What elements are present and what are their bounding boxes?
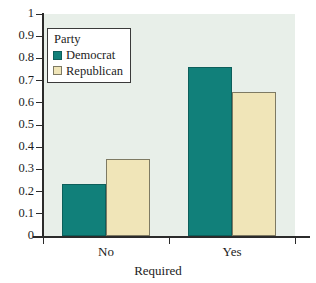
y-axis-tick-label: 0.8	[18, 51, 34, 64]
y-axis-tick	[36, 236, 43, 237]
y-axis-tick	[36, 213, 43, 214]
legend-swatch-republican	[53, 66, 62, 75]
x-axis-line	[33, 236, 310, 238]
y-axis-tick-label: 0.5	[18, 118, 34, 131]
y-axis-tick	[36, 14, 43, 15]
y-axis-tick-label: 0.4	[18, 140, 34, 153]
legend-item-democrat: Democrat	[53, 48, 123, 62]
x-axis-tick	[169, 238, 170, 244]
y-axis-tick-label: 0.9	[18, 29, 34, 42]
y-axis-tick	[36, 58, 43, 59]
x-axis-tick	[43, 238, 44, 244]
bar-yes-democrat	[188, 67, 232, 236]
y-axis-tick	[36, 36, 43, 37]
bar-yes-republican	[232, 92, 276, 236]
chart-legend: Party Democrat Republican	[47, 28, 131, 83]
x-axis-tick	[295, 238, 296, 244]
legend-title: Party	[54, 32, 123, 46]
y-axis-tick	[36, 147, 43, 148]
legend-label-democrat: Democrat	[66, 48, 115, 62]
y-axis-tick-label: 0	[28, 229, 34, 242]
bar-chart: 00.10.20.30.40.50.60.70.80.91 NoYes Requ…	[0, 0, 316, 283]
x-axis-title: Required	[0, 263, 316, 279]
y-axis-tick-label: 0.2	[18, 185, 34, 198]
x-axis-tick-label: Yes	[223, 244, 242, 260]
legend-item-republican: Republican	[53, 64, 123, 78]
y-axis-tick-label: 1	[28, 7, 34, 20]
legend-swatch-democrat	[53, 51, 62, 60]
legend-label-republican: Republican	[66, 64, 123, 78]
y-axis-tick-label: 0.6	[18, 96, 34, 109]
y-axis-tick	[36, 102, 43, 103]
bar-no-democrat	[62, 184, 106, 236]
y-axis-tick-label: 0.7	[18, 74, 34, 87]
y-axis-tick	[36, 125, 43, 126]
y-axis-tick	[36, 191, 43, 192]
y-axis-tick-label: 0.3	[18, 162, 34, 175]
y-axis-tick	[36, 169, 43, 170]
x-axis-tick-label: No	[98, 244, 114, 260]
y-axis-tick-label: 0.1	[18, 207, 34, 220]
y-axis-tick	[36, 80, 43, 81]
bar-no-republican	[106, 159, 150, 236]
